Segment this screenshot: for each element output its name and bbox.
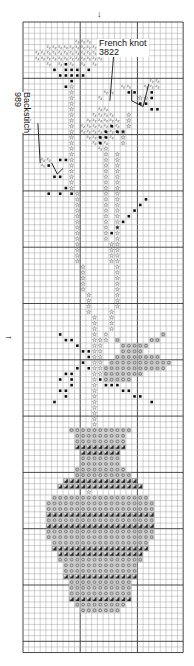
- leaf-circle: [57, 495, 62, 500]
- stem-star: [92, 321, 96, 325]
- leaf-circle: [115, 591, 120, 596]
- vase-dark: [80, 450, 85, 455]
- leaf-circle: [143, 343, 148, 348]
- stem-star: [70, 113, 74, 117]
- leaf-circle: [92, 580, 97, 585]
- leaf-circle: [132, 343, 137, 348]
- leaf-circle: [138, 349, 143, 354]
- stem-star: [121, 141, 125, 145]
- leaf-circle: [149, 535, 154, 540]
- french-knot-dot: [133, 209, 136, 212]
- stem-star: [70, 180, 74, 184]
- vase-dark: [69, 546, 74, 551]
- french-knot-code: 3822: [99, 48, 147, 57]
- vase-dark: [75, 523, 80, 528]
- french-knot-dot: [76, 367, 79, 370]
- vase-dark: [109, 512, 114, 517]
- leaf-circle: [149, 360, 154, 365]
- leaf-circle: [109, 366, 114, 371]
- leaf-circle: [132, 540, 137, 545]
- petal-stitch: [58, 63, 62, 66]
- leaf-circle: [138, 535, 143, 540]
- petal-stitch: [87, 119, 91, 122]
- vase-dark: [149, 523, 154, 528]
- leaf-circle: [115, 518, 120, 523]
- vase-dark: [115, 444, 120, 449]
- leaf-circle: [115, 366, 120, 371]
- leaf-circle: [115, 473, 120, 478]
- french-knot-dot: [47, 164, 50, 167]
- french-knot-dot: [128, 389, 131, 392]
- petal-stitch: [98, 119, 102, 122]
- french-knot-dot: [70, 74, 73, 77]
- petal-stitch: [41, 158, 45, 161]
- stem-star: [92, 360, 96, 364]
- petal-stitch: [81, 40, 85, 43]
- french-knot-dot: [59, 74, 62, 77]
- vase-dark: [103, 523, 108, 528]
- french-knot-dot: [47, 192, 50, 195]
- leaf-circle: [109, 467, 114, 472]
- stem-star: [70, 107, 74, 111]
- leaf-circle: [103, 473, 108, 478]
- petal-stitch: [104, 108, 108, 111]
- leaf-circle: [115, 433, 120, 438]
- leaf-circle: [120, 568, 125, 573]
- vase-dark: [80, 444, 85, 449]
- leaf-circle: [126, 473, 131, 478]
- leaf-circle: [63, 529, 68, 534]
- vase-dark: [132, 523, 137, 528]
- vase-dark: [80, 478, 85, 483]
- leaf-circle: [115, 585, 120, 590]
- petal-stitch: [53, 46, 57, 49]
- vase-dark: [120, 478, 125, 483]
- leaf-circle: [103, 467, 108, 472]
- stem-star: [104, 225, 108, 229]
- petal-stitch: [98, 57, 102, 60]
- french-knot-label: French knot 3822: [97, 39, 149, 57]
- leaf-circle: [109, 377, 114, 382]
- leaf-circle: [80, 506, 85, 511]
- vase-dark: [75, 444, 80, 449]
- leaf-circle: [115, 467, 120, 472]
- leaf-circle: [86, 473, 91, 478]
- stem-star: [70, 101, 74, 105]
- leaf-circle: [132, 518, 137, 523]
- stem-star: [75, 237, 79, 241]
- stem-star: [104, 169, 108, 173]
- leaf-circle: [69, 557, 74, 562]
- petal-stitch: [104, 119, 108, 122]
- leaf-circle: [109, 608, 114, 613]
- vase-dark: [69, 551, 74, 556]
- leaf-circle: [86, 461, 91, 466]
- vase-dark: [92, 551, 97, 556]
- stem-star: [115, 282, 119, 286]
- vase-dark: [109, 596, 114, 601]
- petal-stitch: [98, 125, 102, 128]
- leaf-circle: [75, 568, 80, 573]
- stem-star: [127, 113, 131, 117]
- leaf-circle: [109, 585, 114, 590]
- stem-star: [115, 197, 119, 201]
- vase-dark: [143, 512, 148, 517]
- leaf-circle: [138, 540, 143, 545]
- leaf-circle: [92, 540, 97, 545]
- leaf-circle: [98, 580, 103, 585]
- vase-dark: [103, 478, 108, 483]
- stem-star: [92, 327, 96, 331]
- leaf-circle: [80, 535, 85, 540]
- leaf-circle: [109, 506, 114, 511]
- leaf-circle: [143, 501, 148, 506]
- leaf-circle: [92, 428, 97, 433]
- petal-stitch: [93, 57, 97, 60]
- vase-dark: [120, 444, 125, 449]
- backstitch-line: [38, 123, 40, 163]
- petal-stitch: [104, 91, 108, 94]
- leaf-circle: [63, 568, 68, 573]
- stem-star: [98, 355, 102, 359]
- stem-star: [115, 298, 119, 302]
- leaf-circle: [98, 540, 103, 545]
- french-knot-dot: [76, 69, 79, 72]
- petal-stitch: [76, 51, 80, 54]
- petal-stitch: [144, 85, 148, 88]
